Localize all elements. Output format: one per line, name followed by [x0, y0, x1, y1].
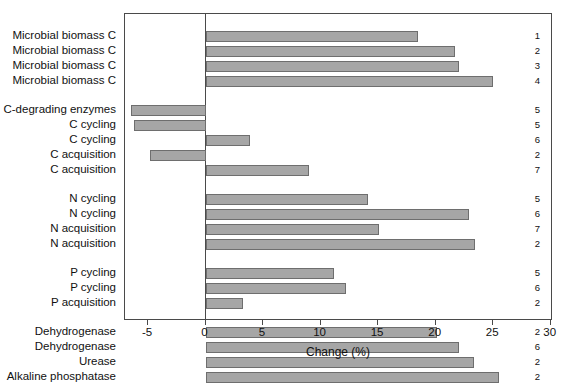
reference-number: 7 [535, 223, 540, 234]
category-label: Dehydrogenase [35, 341, 116, 352]
x-tick [147, 320, 148, 325]
category-label: N acquisition [50, 238, 116, 249]
category-label: Dehydrogenase [35, 326, 116, 337]
x-tick-label: 15 [371, 326, 384, 339]
reference-number: 2 [535, 238, 540, 249]
x-tick-label: 0 [201, 326, 207, 339]
x-axis: Change (%) -5051015202530 [124, 320, 552, 366]
reference-number-column: 12345562756725622622 [124, 13, 552, 320]
category-label: Microbial biomass C [12, 45, 116, 56]
category-label: N cycling [69, 208, 116, 219]
reference-number: 1 [535, 30, 540, 41]
bar [206, 372, 499, 383]
x-tick [262, 320, 263, 325]
category-label: C acquisition [50, 164, 116, 175]
category-label: N acquisition [50, 223, 116, 234]
category-axis-labels: Microbial biomass CMicrobial biomass CMi… [0, 13, 120, 320]
x-tick-label: 30 [543, 326, 556, 339]
reference-number: 2 [535, 45, 540, 56]
x-tick-label: 20 [428, 326, 441, 339]
category-label: N cycling [69, 193, 116, 204]
reference-number: 4 [535, 75, 540, 86]
x-axis-title: Change (%) [124, 345, 552, 359]
reference-number: 6 [535, 208, 540, 219]
x-tick [550, 320, 551, 325]
category-label: C cycling [69, 119, 116, 130]
x-tick-label: 25 [486, 326, 499, 339]
x-tick [377, 320, 378, 325]
x-tick-label: 10 [313, 326, 326, 339]
category-label: C acquisition [50, 149, 116, 160]
reference-number: 6 [535, 282, 540, 293]
category-label: P cycling [70, 267, 116, 278]
x-tick [435, 320, 436, 325]
reference-number: 6 [535, 134, 540, 145]
reference-number: 5 [535, 104, 540, 115]
category-label: Urease [79, 356, 116, 367]
x-tick [492, 320, 493, 325]
category-label: Alkaline phosphatase [7, 371, 116, 382]
reference-number: 5 [535, 119, 540, 130]
x-tick-label: 5 [259, 326, 265, 339]
reference-number: 5 [535, 193, 540, 204]
reference-number: 5 [535, 267, 540, 278]
category-label: C-degrading enzymes [3, 104, 116, 115]
category-label: Microbial biomass C [12, 30, 116, 41]
reference-number: 2 [535, 371, 540, 382]
reference-number: 7 [535, 164, 540, 175]
category-label: Microbial biomass C [12, 60, 116, 71]
x-tick [205, 320, 206, 325]
x-tick [320, 320, 321, 325]
category-label: P acquisition [51, 297, 116, 308]
x-tick-label: -5 [142, 326, 152, 339]
reference-number: 2 [535, 149, 540, 160]
category-label: Microbial biomass C [12, 75, 116, 86]
bar-row [125, 372, 551, 383]
category-label: P cycling [70, 282, 116, 293]
category-label: C cycling [69, 134, 116, 145]
reference-number: 2 [535, 297, 540, 308]
reference-number: 3 [535, 60, 540, 71]
